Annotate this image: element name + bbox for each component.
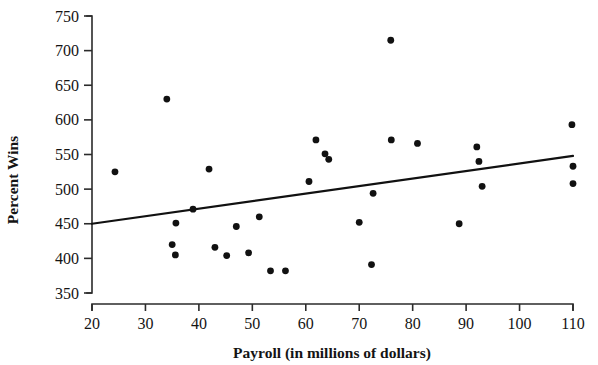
data-point-20 bbox=[370, 190, 377, 197]
data-point-1 bbox=[163, 96, 170, 103]
data-point-15 bbox=[313, 137, 320, 144]
y-axis-tick-label-750: 750 bbox=[55, 8, 79, 25]
data-point-23 bbox=[414, 140, 421, 147]
data-point-11 bbox=[256, 213, 263, 220]
data-point-13 bbox=[282, 267, 289, 274]
y-axis-tick-label-500: 500 bbox=[55, 181, 79, 198]
data-point-10 bbox=[245, 249, 252, 256]
data-point-14 bbox=[306, 178, 313, 185]
data-point-25 bbox=[473, 143, 480, 150]
data-point-30 bbox=[570, 180, 577, 187]
data-point-29 bbox=[570, 163, 577, 170]
data-point-22 bbox=[388, 137, 395, 144]
scatter-plot-figure: 350400450500550600650700750 203040506070… bbox=[0, 0, 598, 365]
x-axis-tick-label-20: 20 bbox=[84, 315, 100, 332]
x-axis-title: Payroll (in millions of dollars) bbox=[233, 344, 431, 362]
x-axis-tick-label-100: 100 bbox=[508, 315, 532, 332]
data-point-27 bbox=[479, 183, 486, 190]
x-axis-tick-label-60: 60 bbox=[298, 315, 314, 332]
x-axis-tick-label-40: 40 bbox=[191, 315, 207, 332]
data-point-24 bbox=[456, 220, 463, 227]
data-point-26 bbox=[476, 158, 483, 165]
x-axis-tick-label-90: 90 bbox=[458, 315, 474, 332]
x-axis-tick-label-50: 50 bbox=[244, 315, 260, 332]
data-point-7 bbox=[212, 244, 219, 251]
data-point-19 bbox=[368, 261, 375, 268]
y-axis-tick-label-650: 650 bbox=[55, 77, 79, 94]
y-axis-tick-label-350: 350 bbox=[55, 285, 79, 302]
x-axis-tick-label-110: 110 bbox=[561, 315, 584, 332]
data-point-9 bbox=[233, 223, 240, 230]
data-point-21 bbox=[387, 37, 394, 44]
data-point-3 bbox=[172, 252, 179, 259]
figure-background bbox=[0, 0, 598, 365]
data-point-0 bbox=[112, 168, 119, 175]
x-axis-tick-label-80: 80 bbox=[405, 315, 421, 332]
y-axis-tick-label-700: 700 bbox=[55, 42, 79, 59]
data-point-18 bbox=[356, 219, 363, 226]
y-axis-tick-label-400: 400 bbox=[55, 250, 79, 267]
data-point-28 bbox=[569, 121, 576, 128]
data-point-4 bbox=[173, 220, 180, 227]
y-axis-tick-label-550: 550 bbox=[55, 146, 79, 163]
data-point-17 bbox=[325, 156, 332, 163]
x-axis-tick-label-70: 70 bbox=[351, 315, 367, 332]
x-axis-tick-label-30: 30 bbox=[137, 315, 153, 332]
data-point-8 bbox=[223, 252, 230, 259]
y-axis-tick-label-600: 600 bbox=[55, 111, 79, 128]
y-axis-tick-label-450: 450 bbox=[55, 215, 79, 232]
data-point-2 bbox=[169, 241, 176, 248]
data-point-6 bbox=[206, 166, 213, 173]
data-point-16 bbox=[322, 150, 329, 157]
data-point-12 bbox=[267, 267, 274, 274]
y-axis-title: Percent Wins bbox=[4, 136, 21, 224]
